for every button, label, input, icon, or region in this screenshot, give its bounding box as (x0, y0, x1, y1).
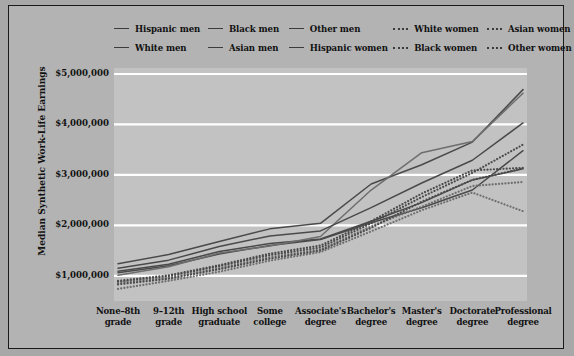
legend-item-hispanic-women[interactable]: Hispanic women (289, 43, 393, 53)
legend-label: Other women (508, 43, 572, 53)
series-line-hispanic-men (118, 151, 523, 273)
chart-legend: Hispanic men Black men Other men White w… (114, 19, 574, 59)
line-chart-svg (114, 68, 527, 301)
chart-panel: Hispanic men Black men Other men White w… (8, 5, 564, 349)
x-axis-tick-label-line: Professional (486, 306, 560, 317)
legend-swatch-solid-icon (208, 28, 223, 29)
series-line-white-men (118, 90, 523, 264)
legend-item-black-women[interactable]: Black women (393, 43, 487, 53)
legend-item-white-men[interactable]: White men (114, 43, 208, 53)
legend-swatch-solid-icon (289, 28, 304, 29)
legend-item-other-women[interactable]: Other women (487, 43, 574, 53)
x-axis-tick-label-line: degree (486, 317, 560, 328)
legend-label: Asian women (508, 24, 570, 34)
legend-label: Asian men (229, 43, 279, 53)
legend-item-white-women[interactable]: White women (393, 24, 487, 34)
legend-item-other-men[interactable]: Other men (289, 24, 393, 34)
legend-item-asian-women[interactable]: Asian women (487, 24, 574, 34)
y-axis-tick-label: $5,000,000 (43, 68, 109, 78)
legend-label: White women (414, 24, 478, 34)
y-axis-tick-label: $2,000,000 (43, 219, 109, 229)
legend-swatch-dotted-icon (487, 28, 502, 30)
legend-label: Other men (310, 24, 361, 34)
x-axis-tick-labels: None–8thgrade9–12thgradeHigh schoolgradu… (114, 306, 527, 346)
legend-item-asian-men[interactable]: Asian men (208, 43, 289, 53)
legend-swatch-dotted-icon (393, 47, 408, 49)
y-axis-tick-labels: $5,000,000$4,000,000$3,000,000$2,000,000… (41, 6, 109, 356)
legend-row-2: White men Asian men Hispanic women Black… (114, 38, 574, 57)
x-axis-tick-label: Professionaldegree (486, 306, 560, 328)
legend-label: White men (135, 43, 187, 53)
y-axis-tick-label: $4,000,000 (43, 118, 109, 128)
legend-swatch-solid-icon (289, 47, 304, 48)
plot-area (114, 68, 527, 301)
legend-item-black-men[interactable]: Black men (208, 24, 289, 34)
legend-label: Black women (414, 43, 477, 53)
legend-swatch-solid-icon (114, 47, 129, 48)
legend-label: Hispanic women (310, 43, 388, 53)
legend-item-hispanic-men[interactable]: Hispanic men (114, 24, 208, 34)
y-axis-tick-label: $1,000,000 (43, 270, 109, 280)
legend-swatch-dotted-icon (393, 28, 408, 30)
legend-label: Hispanic men (135, 24, 200, 34)
legend-swatch-solid-icon (208, 47, 223, 48)
legend-label: Black men (229, 24, 279, 34)
legend-row-1: Hispanic men Black men Other men White w… (114, 19, 574, 38)
legend-swatch-dotted-icon (487, 47, 502, 49)
legend-swatch-solid-icon (114, 28, 129, 29)
y-axis-tick-label: $3,000,000 (43, 169, 109, 179)
